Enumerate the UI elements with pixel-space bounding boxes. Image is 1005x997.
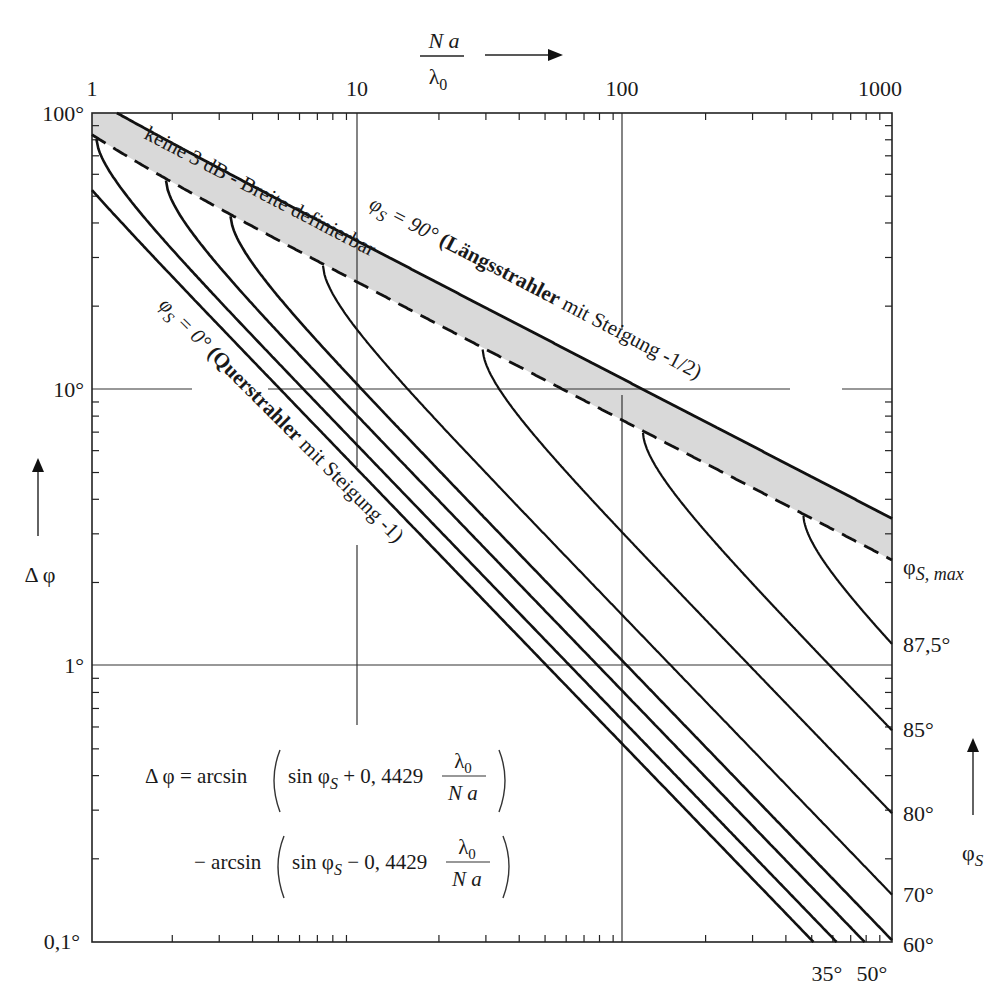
paren-right <box>499 750 505 812</box>
chart: 1 10 100 1000 N a λ0 100° 10° 1° 0,1° Δ … <box>0 0 1005 997</box>
x-tick-100: 100 <box>606 76 639 101</box>
paren-left <box>274 750 280 812</box>
y-axis-label: Δ φ <box>24 562 55 587</box>
y-tick-0-1: 0,1° <box>44 929 80 954</box>
formula-line-1-lhs: Δ φ = arcsin <box>145 764 248 788</box>
arrow-right-icon <box>548 49 563 61</box>
paren-left <box>278 836 284 898</box>
formula: Δ φ = arcsin sin φS + 0, 4429 λ0 N a − a… <box>145 749 509 898</box>
right-axis-label: φS <box>962 840 984 870</box>
frac1-den: N a <box>447 781 478 805</box>
formula-line-2-body: sin φS − 0, 4429 <box>292 850 427 878</box>
x-axis-denominator: λ0 <box>429 64 448 93</box>
y-tick-10: 10° <box>53 377 84 402</box>
x-tick-1000: 1000 <box>858 76 902 101</box>
right-label-60: 60° <box>903 932 934 957</box>
x-tick-10: 10 <box>346 76 368 101</box>
bottom-label-50: 50° <box>857 961 888 986</box>
band-annotation: keine 3 dB - Breite definierbar <box>141 121 380 261</box>
phi-s-curve-60 <box>231 216 893 940</box>
y-tick-100: 100° <box>42 101 84 126</box>
arrow-up-icon <box>967 738 979 752</box>
right-axis-title: φS <box>962 738 984 870</box>
formula-line-2-lhs: − arcsin <box>194 850 262 874</box>
phi-s-curve-70 <box>323 266 892 895</box>
x-tick-1: 1 <box>87 76 98 101</box>
frac2-num: λ0 <box>458 835 476 862</box>
y-tick-1: 1° <box>64 653 84 678</box>
phi-s-max-label: φS, max <box>903 554 964 584</box>
formula-line-1-body: sin φS + 0, 4429 <box>288 764 423 792</box>
frac2-den: N a <box>451 867 482 891</box>
x-axis-title: N a λ0 <box>420 28 563 93</box>
frac1-num: λ0 <box>454 749 472 776</box>
arrow-up-icon <box>32 458 44 472</box>
phi-s-0-annotation: φS = 0° (Querstrahler mit Steigung -1) <box>152 293 410 551</box>
bottom-label-35: 35° <box>812 961 843 986</box>
right-label-85: 85° <box>903 717 934 742</box>
phi-s-curve-50 <box>166 181 865 943</box>
right-label-87-5: 87,5° <box>903 632 950 657</box>
y-axis-title: Δ φ <box>24 458 55 587</box>
right-label-70: 70° <box>903 882 934 907</box>
x-axis-numerator: N a <box>427 28 459 53</box>
right-label-80: 80° <box>903 801 934 826</box>
paren-right <box>503 836 509 898</box>
